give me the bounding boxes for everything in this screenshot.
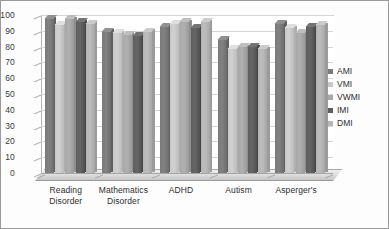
legend-label: VWMI [337,93,360,102]
category-label-line: Mathematics [95,185,153,196]
legend-label: AMI [337,67,352,76]
bar-face [86,23,95,173]
bar[interactable] [218,36,227,173]
bar-group [273,15,331,173]
bar[interactable] [258,45,267,173]
bar[interactable] [123,31,132,173]
legend-item-vwmi[interactable]: VWMI [328,91,380,104]
category-label: ReadingDisorder [37,185,95,206]
bar-face [191,27,200,173]
bar-group [216,15,274,173]
bar-side [152,29,155,171]
bar-face [76,21,85,173]
bar-face [218,39,227,173]
y-tick-label-80: 80 [0,43,15,52]
category-label-line: ADHD [152,185,210,196]
legend-label: IMI [337,106,349,115]
y-tick-mark-50 [34,95,41,99]
bar-group [101,15,159,173]
bar-face [180,21,189,173]
bar-group [43,15,101,173]
bar-face [275,23,284,173]
y-tick-label-100: 100 [0,11,15,20]
bar[interactable] [65,15,74,173]
bar[interactable] [180,18,189,173]
legend-swatch-icon [328,108,333,113]
bar[interactable] [76,18,85,173]
y-tick-label-60: 60 [0,74,15,83]
category-label: ADHD [152,185,210,196]
y-tick-label-30: 30 [0,122,15,131]
y-tick-label-0: 0 [0,169,15,178]
bar-side [210,20,213,172]
legend-swatch-icon [328,82,333,87]
bar-face [160,26,169,173]
bar[interactable] [238,43,247,173]
legend-label: VMI [337,80,352,89]
bar[interactable] [143,28,152,173]
category-label-line: Disorder [37,196,95,207]
y-tick-label-50: 50 [0,90,15,99]
bar[interactable] [201,18,210,173]
legend-item-vmi[interactable]: VMI [328,78,380,91]
category-label-line: Asperger's [267,185,325,196]
legend-item-ami[interactable]: AMI [328,65,380,78]
y-tick-mark-40 [34,110,41,114]
y-tick-label-40: 40 [0,106,15,115]
bar[interactable] [296,29,305,173]
bar-face [170,23,179,173]
bar-face [113,32,122,173]
bar-face [201,21,210,173]
bar-face [316,24,325,173]
bar[interactable] [275,20,284,173]
bar[interactable] [316,21,325,173]
legend-swatch-icon [328,121,333,126]
bar-face [102,31,111,173]
bar-side [95,21,98,171]
bar[interactable] [306,23,315,173]
y-tick-mark-60 [34,79,41,83]
bar[interactable] [133,32,142,173]
bar[interactable] [170,20,179,173]
y-tick-mark-100 [34,16,41,20]
bar[interactable] [160,23,169,173]
bar-face [45,18,54,173]
bar[interactable] [86,20,95,173]
category-label-line: Reading [37,185,95,196]
y-tick-label-20: 20 [0,137,15,146]
bar[interactable] [45,15,54,173]
category-label-line: Disorder [95,196,153,207]
bar[interactable] [113,29,122,173]
chart-container: 1009080706050403020100 ReadingDisorderMa… [0,0,389,229]
bar-face [65,18,74,173]
y-tick-mark-20 [34,142,41,146]
bar-face [306,26,315,173]
category-label: MathematicsDisorder [95,185,153,206]
chart-legend: AMIVMIVWMIIMIDMI [328,65,380,130]
legend-item-dmi[interactable]: DMI [328,117,380,130]
legend-item-imi[interactable]: IMI [328,104,380,117]
category-label: Autism [210,185,268,196]
bar[interactable] [285,24,294,173]
category-label: Asperger's [267,185,325,196]
y-tick-mark-80 [34,47,41,51]
category-label-line: Autism [210,185,268,196]
bar[interactable] [248,43,257,173]
bar[interactable] [55,21,64,173]
bar[interactable] [102,28,111,173]
legend-swatch-icon [328,95,333,100]
bar-side [267,47,270,172]
bar[interactable] [228,45,237,173]
y-tick-mark-90 [34,31,41,35]
bar-face [258,48,267,173]
y-tick-mark-30 [34,126,41,130]
legend-label: DMI [337,119,353,128]
y-axis: 1009080706050403020100 [1,1,41,229]
bar-face [238,46,247,173]
y-tick-label-70: 70 [0,58,15,67]
bar[interactable] [191,24,200,173]
bar-groups [43,15,331,173]
bar-face [123,34,132,173]
gridline-0 [41,173,333,174]
y-tick-label-90: 90 [0,27,15,36]
